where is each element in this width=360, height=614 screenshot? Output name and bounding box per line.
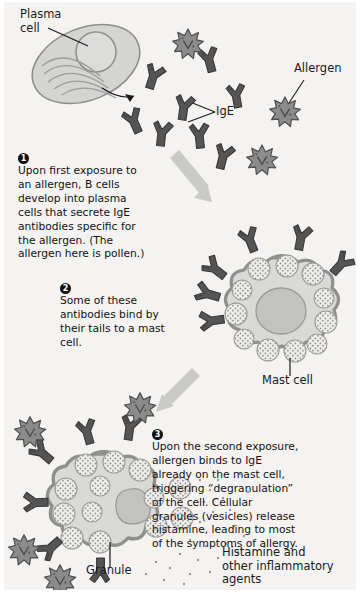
step-2-text: Some of these antibodies bind by their t… bbox=[60, 294, 180, 350]
label-allergen: Allergen bbox=[294, 62, 342, 76]
label-granule: Granule bbox=[86, 564, 132, 578]
allergy-diagram-figure: Plasma cell Allergen IgE Mast cell Granu… bbox=[0, 0, 360, 614]
step-2: 2Some of these antibodies bind by their … bbox=[60, 280, 180, 350]
label-ige: IgE bbox=[216, 105, 234, 119]
ige-leader bbox=[188, 102, 215, 122]
stage-arrow-2 bbox=[156, 368, 200, 412]
diagram-canvas: Plasma cell Allergen IgE Mast cell Granu… bbox=[4, 2, 356, 590]
step-3-text: Upon the second exposure, allergen binds… bbox=[152, 440, 300, 551]
step-1-number: 1 bbox=[18, 153, 29, 164]
label-mast-cell: Mast cell bbox=[262, 374, 313, 388]
label-plasma-cell: Plasma cell bbox=[20, 8, 61, 35]
step-3: 3Upon the second exposure, allergen bind… bbox=[152, 426, 300, 551]
stage-arrow-1 bbox=[170, 150, 212, 202]
label-histamine: Histamine and other inflammatory agents bbox=[222, 546, 334, 587]
step-3-number: 3 bbox=[152, 429, 163, 440]
step-2-number: 2 bbox=[60, 283, 71, 294]
step-1-text: Upon first exposure to an allergen, B ce… bbox=[18, 164, 148, 261]
step-1: 1Upon first exposure to an allergen, B c… bbox=[18, 150, 148, 261]
mast-cell-upper bbox=[225, 255, 339, 362]
